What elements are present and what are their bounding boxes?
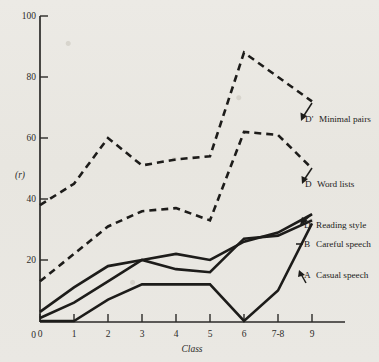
legend-label-casual-speech: Casual speech: [316, 270, 369, 280]
series-line-word-lists: [40, 132, 312, 281]
legend-label-careful-speech: Careful speech: [316, 239, 371, 249]
legend-key-minimal-pairs: D': [305, 114, 314, 124]
y-tick-label-0: 0: [31, 330, 36, 340]
x-tick-label-1: 1: [72, 329, 77, 339]
series-group: [40, 53, 312, 321]
x-tick-label-7-8: 7-8: [272, 329, 285, 339]
legend-key-word-lists: D: [305, 179, 312, 189]
y-tick-label-60: 60: [27, 133, 37, 143]
x-tick-label-3: 3: [140, 329, 145, 339]
x-tick-label-6: 6: [242, 329, 247, 339]
x-axis: 0 1 2 3 4 5 6 7-8 9 Class: [38, 314, 345, 354]
series-line-minimal-pairs: [40, 53, 312, 206]
x-axis-title: Class: [181, 344, 202, 354]
y-tick-label-20: 20: [27, 255, 37, 265]
legend-key-careful-speech: B: [304, 239, 310, 249]
x-tick-label-0: 0: [38, 329, 43, 339]
legend-key-reading-style: D: [304, 220, 311, 230]
series-line-careful-speech: [40, 220, 312, 318]
x-tick-label-2: 2: [106, 329, 111, 339]
y-axis: 100 80 60 40 20 0 (r): [15, 11, 48, 340]
y-tick-label-100: 100: [22, 11, 37, 21]
x-tick-label-5: 5: [208, 329, 213, 339]
y-tick-label-40: 40: [27, 194, 37, 204]
legend: D' Minimal pairs D Word lists D Reading …: [296, 103, 371, 283]
r-by-class-line-chart: 100 80 60 40 20 0 (r) 0 1 2: [0, 0, 379, 362]
legend-key-casual-speech: A: [304, 270, 311, 280]
series-line-casual-speech: [40, 223, 312, 321]
x-tick-label-4: 4: [174, 329, 179, 339]
legend-label-minimal-pairs: Minimal pairs: [319, 114, 371, 124]
legend-label-reading-style: Reading style: [316, 220, 366, 230]
legend-label-word-lists: Word lists: [317, 179, 355, 189]
chart-page: 100 80 60 40 20 0 (r) 0 1 2: [0, 0, 379, 362]
y-axis-title: (r): [15, 170, 25, 181]
y-axis-ticks: [40, 16, 48, 321]
y-tick-label-80: 80: [27, 72, 37, 82]
x-tick-label-9: 9: [310, 329, 315, 339]
